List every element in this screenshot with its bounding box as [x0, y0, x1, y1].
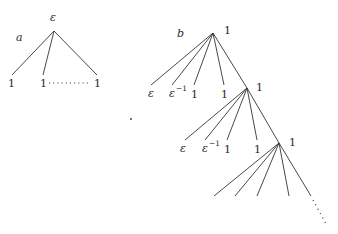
stray-dot	[130, 118, 132, 120]
tree-b-leaf: 1	[221, 88, 228, 101]
tree-a-edge	[54, 31, 97, 75]
tree-b-leaf: ε	[202, 142, 208, 155]
tree-b-leaf: ε	[148, 87, 154, 100]
tree-diagram: a ε 1 1 1 b 1 ε ε −1 1 1 1 ε ε −1 1 1	[0, 0, 338, 234]
tree-b-edge	[213, 33, 224, 85]
tree-b-edge	[172, 33, 213, 85]
tree-b-leaf-superscript: −1	[209, 139, 220, 148]
tree-b-continuation-ellipsis	[313, 200, 326, 224]
tree-b-leaf: ε	[180, 142, 186, 155]
tree-b-node-label: 1	[289, 136, 296, 149]
tree-a-root-label: ε	[50, 11, 56, 24]
tree-b-node-label: 1	[224, 24, 231, 37]
tree-b: b 1 ε ε −1 1 1 1 ε ε −1 1 1 1	[148, 24, 326, 224]
tree-b-edge	[247, 88, 279, 143]
tree-b-leaf: 1	[224, 143, 231, 156]
tree-a-leaf: 1	[40, 77, 47, 90]
tree-a-edge	[43, 31, 54, 75]
tree-b-edge	[213, 33, 247, 88]
tree-b-leaf: 1	[191, 88, 198, 101]
panel-label-b: b	[177, 27, 184, 40]
tree-a-leaf: 1	[8, 77, 15, 90]
tree-a-leaf: 1	[94, 77, 101, 90]
tree-b-leaf-superscript: −1	[176, 84, 187, 93]
tree-a: a ε 1 1 1	[8, 11, 101, 90]
tree-b-leaf: ε	[169, 87, 175, 100]
tree-b-leaf: 1	[254, 143, 261, 156]
tree-b-node-label: 1	[256, 81, 263, 94]
panel-label-a: a	[16, 31, 23, 44]
